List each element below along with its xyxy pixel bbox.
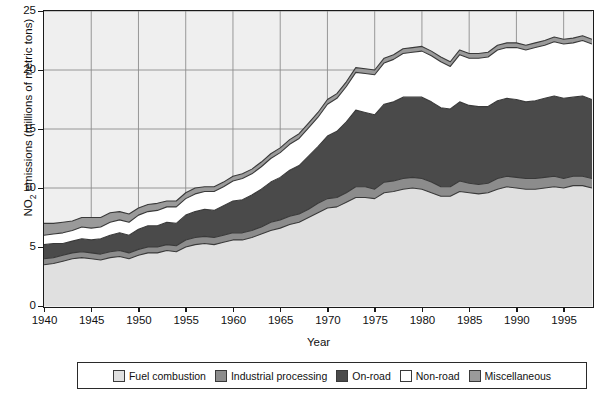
x-tick-mark [185, 307, 187, 312]
area-series-group [44, 36, 592, 306]
x-tick-mark [516, 307, 518, 312]
legend-item-on-road[interactable]: On-road [336, 370, 391, 382]
y-tick-mark [38, 70, 43, 72]
y-axis-title-subscript: 2 [28, 195, 38, 200]
legend-item-fuel-combustion[interactable]: Fuel combustion [113, 370, 206, 382]
x-tick-label: 1955 [164, 314, 208, 326]
x-tick-mark [44, 307, 46, 312]
x-axis-title: Year [43, 336, 594, 348]
legend-swatch-icon [400, 370, 412, 382]
y-tick-label: 5 [2, 240, 36, 252]
legend-label: On-road [352, 370, 391, 382]
x-tick-mark [374, 307, 376, 312]
chart-legend: Fuel combustionIndustrial processingOn-r… [77, 362, 587, 389]
stacked-area-chart [44, 11, 592, 306]
legend-label: Non-road [416, 370, 460, 382]
legend-label: Industrial processing [231, 370, 327, 382]
y-tick-label: 0 [2, 299, 36, 311]
x-tick-mark [469, 307, 471, 312]
y-axis-title-rest: emissions (millions of metric tons) [22, 19, 34, 195]
y-tick-mark [38, 188, 43, 190]
x-tick-mark [422, 307, 424, 312]
x-tick-label: 1995 [542, 314, 586, 326]
legend-item-miscellaneous[interactable]: Miscellaneous [469, 370, 552, 382]
y-tick-mark [38, 247, 43, 249]
x-tick-label: 1960 [211, 314, 255, 326]
legend-swatch-icon [469, 370, 481, 382]
plot-area [43, 10, 594, 308]
x-tick-mark [138, 307, 140, 312]
x-tick-label: 1945 [70, 314, 114, 326]
x-tick-mark [233, 307, 235, 312]
x-tick-label: 1965 [259, 314, 303, 326]
legend-label: Miscellaneous [485, 370, 552, 382]
y-tick-mark [38, 306, 43, 308]
legend-swatch-icon [336, 370, 348, 382]
x-tick-label: 1970 [306, 314, 350, 326]
x-tick-label: 1980 [400, 314, 444, 326]
legend-swatch-icon [215, 370, 227, 382]
x-tick-mark [280, 307, 282, 312]
x-tick-label: 1990 [495, 314, 539, 326]
legend-item-non-road[interactable]: Non-road [400, 370, 460, 382]
legend-swatch-icon [113, 370, 125, 382]
x-tick-mark [563, 307, 565, 312]
y-axis-title: NO2 emissions (millions of metric tons) [22, 3, 37, 233]
x-tick-label: 1950 [117, 314, 161, 326]
x-tick-mark [327, 307, 329, 312]
y-tick-mark [38, 129, 43, 131]
x-tick-mark [91, 307, 93, 312]
y-tick-mark [38, 11, 43, 13]
chart-figure: 0510152025 19401945195019551960196519701… [0, 0, 608, 396]
y-axis-title-base: NO [22, 199, 34, 216]
legend-label: Fuel combustion [129, 370, 206, 382]
x-tick-label: 1985 [448, 314, 492, 326]
legend-item-industrial-processing[interactable]: Industrial processing [215, 370, 327, 382]
x-tick-label: 1975 [353, 314, 397, 326]
x-tick-label: 1940 [23, 314, 67, 326]
